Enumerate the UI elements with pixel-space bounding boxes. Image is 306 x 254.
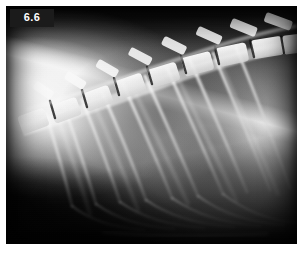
scapula-bright-region — [6, 6, 297, 244]
vertebral-column-group — [6, 6, 297, 244]
ribs-group — [6, 6, 297, 244]
film-vignette-layer — [6, 6, 297, 244]
figure-number-label: 6.6 — [10, 9, 54, 27]
film-base-layer — [6, 6, 297, 244]
diaphragm-shadow-layer — [6, 6, 297, 244]
scapular-spine-streak — [6, 6, 297, 244]
figure-page: 6.6 — [0, 0, 306, 254]
film-grain-layer — [6, 6, 297, 244]
radiograph-image: 6.6 — [6, 6, 297, 244]
lung-field-layer — [6, 6, 297, 244]
soft-tissue-layer — [6, 6, 297, 244]
